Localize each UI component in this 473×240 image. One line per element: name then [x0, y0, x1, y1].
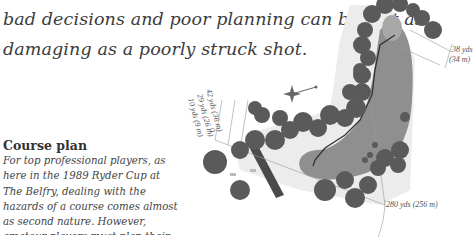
- label-green-width-m: (34 m): [449, 55, 470, 64]
- tee-marker: [250, 169, 256, 172]
- compass-icon: [283, 85, 318, 103]
- tee-marker: [230, 173, 236, 176]
- label-hole-length: 280 yds (256 m): [386, 200, 438, 209]
- label-green-width-yds: 38 yds: [452, 45, 473, 54]
